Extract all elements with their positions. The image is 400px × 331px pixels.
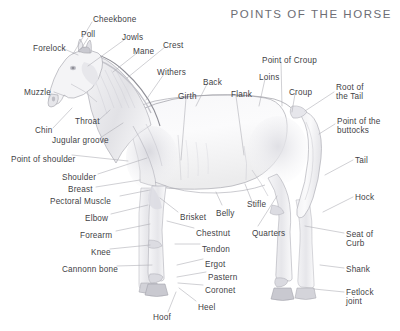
label-fetlock-joint: Fetlock joint: [346, 288, 374, 307]
label-seat-of-curb: Seat of Curb: [346, 230, 373, 249]
nostril: [52, 97, 55, 102]
point-of-buttocks-line: [319, 124, 335, 134]
label-flank: Flank: [231, 90, 252, 99]
label-cannonn-bone: Cannonn bone: [62, 265, 118, 274]
label-shank: Shank: [346, 265, 370, 274]
pastern-line: [177, 272, 206, 277]
hindquarter-shading: [248, 116, 308, 184]
label-tendon: Tendon: [202, 245, 230, 254]
label-point-of-buttocks: Point of the buttocks: [337, 117, 381, 136]
ergot-line: [177, 259, 203, 265]
label-jowls: Jowls: [122, 33, 143, 42]
label-ergot: Ergot: [205, 260, 225, 269]
breast-line: [96, 180, 140, 187]
coronet-line: [178, 283, 203, 285]
label-breast: Breast: [68, 185, 93, 194]
label-pectoral-muscle: Pectoral Muscle: [50, 197, 111, 206]
tail-line: [325, 160, 353, 175]
label-throat: Throat: [75, 117, 100, 126]
near-hind-leg: [268, 174, 292, 281]
label-withers: Withers: [157, 68, 186, 77]
label-coronet: Coronet: [205, 286, 235, 295]
label-shoulder: Shoulder: [62, 173, 96, 182]
label-crest: Crest: [163, 41, 183, 50]
label-tail: Tail: [355, 156, 368, 165]
far-hind-hoof: [295, 288, 316, 300]
label-chin: Chin: [35, 126, 53, 135]
label-pastern: Pastern: [208, 273, 237, 282]
near-hind-fetlock: [275, 278, 288, 287]
near-front-hoof: [145, 284, 168, 297]
belly-line: [216, 192, 222, 205]
label-croup: Croup: [289, 88, 312, 97]
label-mane: Mane: [133, 47, 154, 56]
label-loins: Loins: [259, 73, 279, 82]
label-belly: Belly: [216, 209, 235, 218]
label-back: Back: [203, 78, 222, 87]
label-stifle: Stifle: [247, 200, 266, 209]
label-hock: Hock: [355, 193, 374, 202]
label-poll: Poll: [81, 30, 95, 39]
hock-line: [323, 197, 353, 212]
diagram-page: POINTS OF THE HORSE CheekbonePollJowlsFo…: [0, 0, 400, 331]
label-muzzle: Muzzle: [24, 88, 51, 97]
horse-illustration: [48, 39, 322, 301]
near-hind-hoof: [271, 288, 294, 301]
hoof-line: [168, 292, 176, 312]
label-point-of-croup: Point of Croup: [262, 56, 317, 65]
label-cheekbone: Cheekbone: [93, 15, 137, 24]
eye-pupil: [72, 67, 75, 69]
withers-line: [146, 74, 164, 100]
heel-line: [179, 288, 196, 301]
near-front-fetlock: [149, 274, 163, 283]
point-of-croup-line: [281, 62, 282, 106]
label-brisket: Brisket: [180, 213, 206, 222]
label-forelock: Forelock: [33, 44, 66, 53]
page-title: POINTS OF THE HORSE: [230, 8, 392, 20]
shank-line: [320, 265, 344, 268]
label-elbow: Elbow: [85, 214, 108, 223]
fetlock-joint-line: [314, 289, 344, 292]
label-chestnut: Chestnut: [196, 229, 230, 238]
label-root-of-the-tail: Root of the Tail: [336, 83, 364, 102]
label-knee: Knee: [91, 248, 111, 257]
label-point-of-shoulder: Point of shoulder: [11, 155, 76, 164]
label-jugular-groove: Jugular groove: [52, 136, 109, 145]
label-heel: Heel: [198, 303, 216, 312]
label-quarters: Quarters: [252, 229, 285, 238]
chin-line: [53, 108, 72, 128]
label-girth: Girth: [178, 92, 197, 101]
label-hoof: Hoof: [153, 313, 171, 322]
label-forearm: Forearm: [80, 231, 112, 240]
